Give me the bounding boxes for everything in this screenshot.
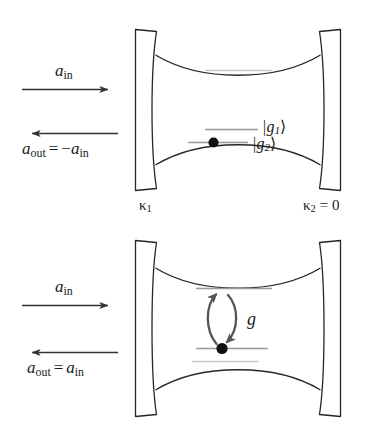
- bottom-mode-upper-curve: [156, 268, 321, 288]
- coupling-arrow-up: [208, 295, 217, 345]
- bottom-mode-lower-curve: [156, 370, 321, 390]
- top-mode-upper-curve: [156, 55, 321, 75]
- g2-ket-label: |g2⟩: [252, 136, 276, 154]
- coupling-arrow-down: [227, 295, 236, 342]
- top-input-label: ain: [55, 62, 73, 82]
- kappa2-label: κ2= 0: [303, 198, 340, 215]
- bottom-atom-dot: [216, 343, 227, 354]
- bottom-panel: [22, 241, 341, 417]
- g1-ket-label: |g1⟩: [262, 119, 286, 137]
- bottom-input-label: ain: [55, 278, 73, 298]
- coupling-label: g: [247, 310, 256, 328]
- top-left-mirror: [136, 30, 157, 191]
- top-mode-lower-curve: [156, 145, 321, 165]
- bottom-left-mirror: [136, 241, 157, 417]
- top-right-mirror: [320, 30, 341, 191]
- kappa1-label: κ1: [139, 198, 152, 215]
- top-panel: [22, 30, 341, 191]
- bottom-output-label: aout=ain: [27, 359, 84, 379]
- top-output-label: aout=−ain: [22, 140, 89, 160]
- top-atom-dot: [208, 137, 218, 147]
- bottom-right-mirror: [320, 241, 341, 417]
